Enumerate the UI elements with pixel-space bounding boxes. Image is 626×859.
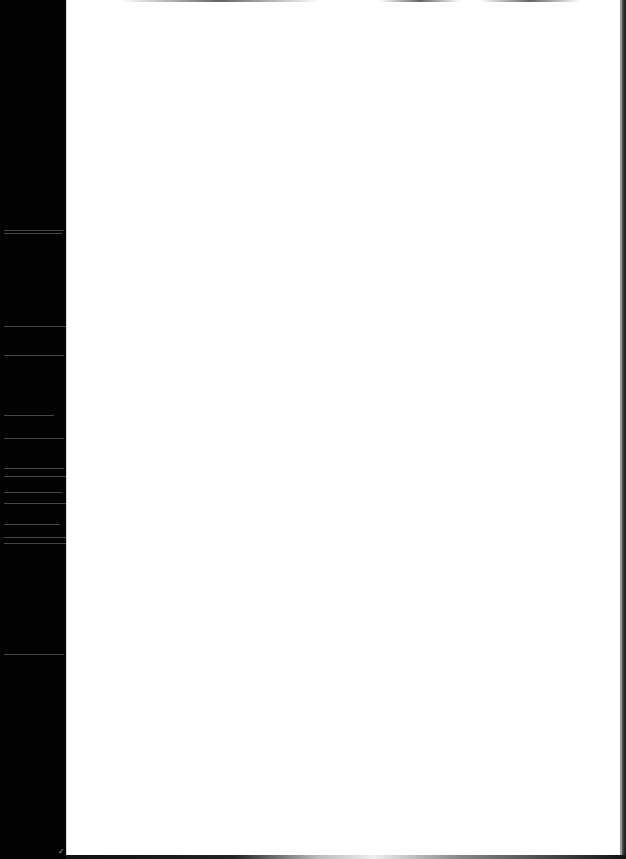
page-right-edge [622,0,626,859]
scan-streak [4,438,64,439]
scanned-document: ✓ [0,0,626,859]
top-scan-shadow [480,0,580,2]
scan-streak [4,230,64,231]
top-scan-shadow [120,0,320,2]
scan-streak [4,355,64,356]
scan-streak [4,326,66,327]
scan-streak [4,468,64,469]
top-scan-shadow [380,0,460,2]
blank-page [66,0,622,855]
corner-fold-mark: ✓ [58,848,66,856]
scan-streak [4,537,66,538]
scan-streak [4,654,64,655]
scan-streak [4,492,62,493]
scan-streak [4,503,66,504]
scan-streak [4,543,66,544]
page-bottom-edge [66,855,626,859]
scan-streak [4,415,54,416]
scan-streak [4,524,60,525]
scanner-bed-margin [0,0,66,859]
scan-streak [4,476,66,477]
scan-streak [4,233,62,234]
